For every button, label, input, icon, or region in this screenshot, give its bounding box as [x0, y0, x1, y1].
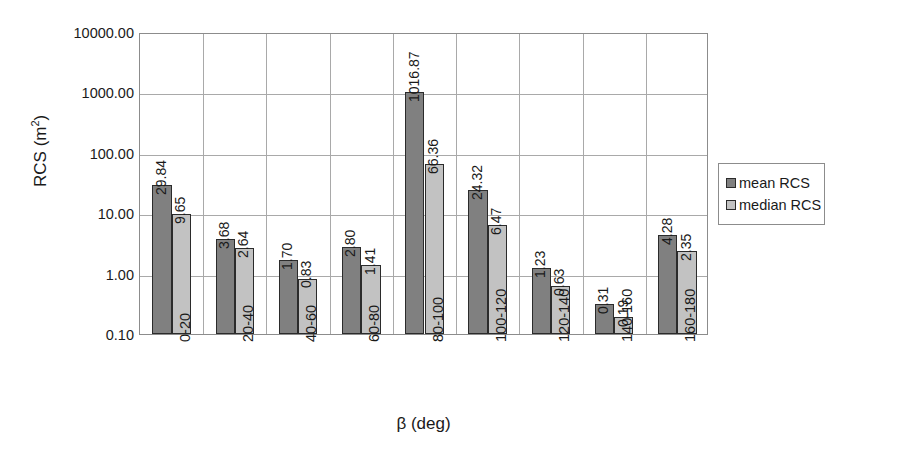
- legend-item-median[interactable]: median RCS: [719, 194, 824, 216]
- legend-item-label: median RCS: [739, 197, 821, 213]
- bar-value-label: 29.84: [155, 159, 168, 194]
- bar-value-label: 1016.87: [408, 51, 421, 102]
- bar-value-label: 1.70: [281, 242, 294, 269]
- bar-value-label: 2.35: [680, 234, 693, 261]
- legend-swatch-icon: [726, 200, 736, 210]
- rcs-bar-chart: RCS (m2) 10000.001000.00100.0010.001.000…: [0, 0, 915, 458]
- bar-mean: [532, 268, 551, 334]
- gridline-vertical: [393, 34, 394, 334]
- x-axis-tick-label: 100-120: [494, 289, 508, 342]
- y-axis-tick-label: 10000.00: [34, 26, 134, 40]
- gridline-vertical: [583, 34, 584, 334]
- bar-value-label: 2.64: [237, 231, 250, 258]
- bar-mean: [342, 247, 361, 334]
- bar-value-label: 6.47: [490, 207, 503, 234]
- bar-mean: [279, 260, 298, 334]
- bar-value-label: 3.68: [218, 222, 231, 249]
- chart-legend: mean RCSmedian RCS: [718, 163, 825, 225]
- gridline-vertical: [330, 34, 331, 334]
- y-axis-tick-label: 10.00: [34, 207, 134, 221]
- bar-mean: [216, 239, 235, 334]
- x-axis-tick-label: 140-160: [620, 289, 634, 342]
- bar-value-label: 0.83: [300, 261, 313, 288]
- bar-value-label: 9.65: [174, 197, 187, 224]
- x-axis-tick-label: 20-40: [241, 305, 255, 342]
- bar-value-label: 4.28: [661, 218, 674, 245]
- gridline-vertical: [456, 34, 457, 334]
- bar-mean: [152, 185, 171, 334]
- x-axis-title: β (deg): [139, 414, 708, 434]
- gridline-vertical: [519, 34, 520, 334]
- gridline-vertical: [266, 34, 267, 334]
- x-axis-tick-label: 120-140: [557, 289, 571, 342]
- bar-value-label: 0.31: [597, 287, 610, 314]
- x-axis-tick-label: 0-20: [178, 313, 192, 342]
- bar-value-label: 66.36: [427, 139, 440, 174]
- y-axis-tick-labels: 10000.001000.00100.0010.001.000.10: [30, 0, 134, 458]
- gridline-vertical: [203, 34, 204, 334]
- bar-mean: [658, 235, 677, 334]
- bar-value-label: 1.41: [364, 247, 377, 274]
- bar-mean: [405, 92, 424, 334]
- legend-swatch-icon: [726, 178, 736, 188]
- x-axis-tick-label: 80-100: [431, 297, 445, 342]
- legend-item-mean[interactable]: mean RCS: [719, 172, 824, 194]
- bar-value-label: 24.32: [471, 165, 484, 200]
- y-axis-tick-label: 100.00: [34, 147, 134, 161]
- y-axis-tick-label: 0.10: [34, 328, 134, 342]
- legend-item-label: mean RCS: [739, 175, 810, 191]
- bar-value-label: 1.23: [534, 251, 547, 278]
- y-axis-tick-label: 1000.00: [34, 86, 134, 100]
- gridline-vertical: [646, 34, 647, 334]
- x-axis-tick-label: 60-80: [367, 305, 381, 342]
- x-axis-tick-label: 160-180: [683, 289, 697, 342]
- y-axis-tick-label: 1.00: [34, 268, 134, 282]
- bar-mean: [468, 190, 487, 334]
- x-axis-tick-label: 40-60: [304, 305, 318, 342]
- bar-value-label: 2.80: [344, 229, 357, 256]
